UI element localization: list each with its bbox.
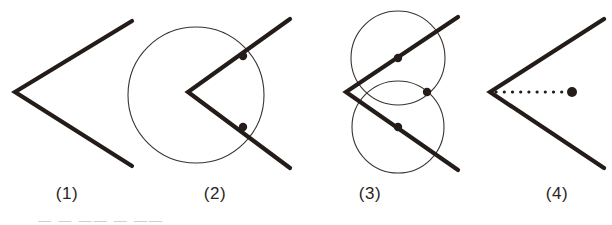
panel-4-caption: (4) — [522, 184, 592, 204]
panel-2-caption: (2) — [180, 184, 250, 204]
panel-3-arc-crossing-point — [423, 88, 431, 96]
panel-2-intersection-upper-point — [239, 52, 247, 60]
panel-3-caption: (3) — [335, 184, 405, 204]
panel-2-intersection-lower-point — [239, 123, 247, 131]
panel-4-bisector-endpoint-point — [567, 87, 577, 97]
panel-1-caption: (1) — [32, 184, 102, 204]
panel-3-center-upper-point — [394, 54, 402, 62]
panel-3-center-lower-point — [394, 123, 402, 131]
clipped-footer-text: — — —— — —— — [38, 213, 268, 225]
